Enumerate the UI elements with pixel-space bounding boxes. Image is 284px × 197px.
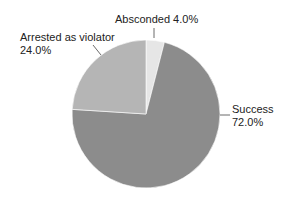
- label-success-value: 72.0%: [232, 116, 274, 129]
- pie-chart: [0, 0, 284, 197]
- label-success-name: Success: [232, 103, 274, 116]
- label-arrested: Arrested as violator 24.0%: [20, 31, 115, 57]
- label-arrested-name: Arrested as violator: [20, 31, 115, 44]
- label-arrested-value: 24.0%: [20, 44, 115, 57]
- label-success: Success 72.0%: [232, 103, 274, 129]
- label-absconded: Absconded 4.0%: [115, 13, 198, 26]
